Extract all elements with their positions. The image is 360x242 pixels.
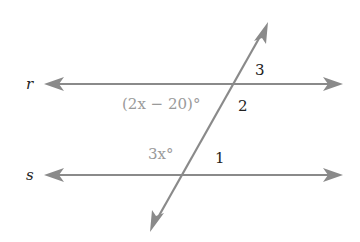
- angle-3-label: 3: [255, 61, 265, 79]
- angle-1-label: 1: [215, 149, 225, 167]
- line-r-label: r: [26, 75, 34, 93]
- line-r: [44, 77, 343, 91]
- line-s-label: s: [26, 166, 34, 184]
- arrowhead-up-icon: [254, 22, 268, 44]
- diagram-canvas: r s 3 2 1 (2x − 20)° 3x°: [0, 0, 360, 242]
- angle-expression-3x: 3x°: [148, 145, 174, 163]
- angle-expression-2x-minus-20: (2x − 20)°: [122, 95, 200, 113]
- arrowhead-down-icon: [150, 210, 164, 232]
- angle-2-label: 2: [238, 97, 248, 115]
- transversal-line: [150, 22, 268, 232]
- line-s: [44, 168, 343, 182]
